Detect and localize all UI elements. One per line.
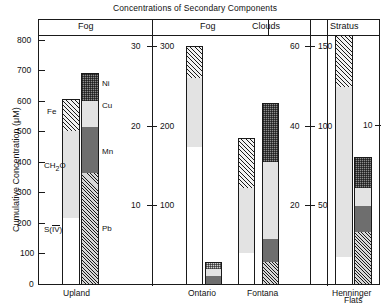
ontario-left-tick-20 (147, 126, 157, 127)
series-label-mn: Mn (102, 148, 113, 156)
ontario-right-tick-label-300: 300 (160, 42, 174, 51)
panel-header-upland: Fog (78, 22, 94, 31)
segment-siv (239, 253, 254, 284)
ontario-right-tick-label-100: 100 (160, 201, 174, 210)
y-tick-label-800: 800 (17, 36, 31, 45)
y-tick-700 (39, 70, 45, 71)
segment-mn (263, 239, 278, 262)
segment-ch2o (187, 78, 202, 147)
series-label-ch2o: CH2O (44, 162, 66, 172)
segment-ni (355, 158, 371, 188)
ch2o-text-a: CH (44, 161, 56, 170)
series-label-fe: Fe (47, 108, 56, 116)
henninger-left-tick-label-40: 40 (290, 122, 299, 131)
y-tick-600 (39, 101, 45, 102)
y-tick-label-600: 600 (17, 97, 31, 106)
bar-fontana-metals (262, 103, 279, 285)
segment-mn (82, 127, 98, 173)
henninger-left-tick-label-20: 20 (290, 201, 299, 210)
segment-ch2o (336, 87, 352, 257)
segment-ch2o (63, 131, 79, 218)
y-tick-300 (39, 192, 45, 193)
panel-divider-3 (327, 20, 328, 286)
y-tick-label-400: 400 (17, 158, 31, 167)
series-label-cu: Cu (102, 102, 112, 110)
series-label-ni: Ni (102, 80, 110, 88)
henninger-left-tick-60 (305, 46, 315, 47)
y-tick-0 (39, 284, 45, 285)
ontario-left-tick-30 (147, 46, 157, 47)
henninger-axis-line (310, 20, 311, 285)
segment-siv (63, 218, 79, 284)
category-label-fontana: Fontana (247, 289, 278, 298)
y-tick-label-0: 0 (29, 280, 34, 289)
ontario-right-tick-label-200: 200 (160, 122, 174, 131)
y-tick-label-500: 500 (17, 127, 31, 136)
bar-henninger-metals (354, 157, 372, 285)
henninger-right-tick-label-50: 50 (318, 201, 327, 210)
ontario-left-tick-label-30: 30 (131, 42, 140, 51)
ontario-left-tick-label-20: 20 (131, 122, 140, 131)
segment-mn (355, 206, 371, 232)
siv-roman-numeral: IV (52, 225, 60, 234)
segment-siv (336, 257, 352, 284)
segment-fe (63, 100, 79, 131)
series-label-siv: S(IV) (44, 225, 62, 234)
y-tick-label-100: 100 (20, 249, 34, 258)
segment-ch2o (239, 188, 254, 253)
ontario-left-tick-label-10: 10 (131, 201, 140, 210)
y-tick-100 (39, 253, 45, 254)
segment-pb (206, 276, 221, 284)
henninger-left-tick-40 (305, 126, 315, 127)
henninger-right-tick-label-100: 100 (318, 122, 332, 131)
segment-cu (82, 101, 98, 127)
segment-pb (263, 262, 278, 284)
y-tick-label-300: 300 (17, 188, 31, 197)
segment-pb (82, 173, 98, 284)
category-label-upland: Upland (63, 289, 90, 298)
header-rule (39, 35, 379, 36)
y-tick-500 (39, 131, 45, 132)
segment-siv (187, 147, 202, 284)
bar-ontario-metals (205, 262, 222, 285)
segment-fe (336, 36, 352, 87)
y-tick-label-200: 200 (17, 219, 31, 228)
henninger-left-tick-label-60: 60 (290, 42, 299, 51)
bar-fontana-major (238, 138, 255, 285)
segment-cu (263, 162, 278, 239)
category-label-flats: Flats (344, 296, 362, 305)
siv-text-a: S( (44, 225, 52, 234)
bar-ontario-major (186, 46, 203, 285)
segment-fe (187, 47, 202, 78)
henninger-left-tick-20 (305, 205, 315, 206)
y-tick-800 (39, 40, 45, 41)
far-right-tick-10 (375, 125, 381, 126)
category-label-ontario: Ontario (188, 289, 216, 298)
segment-ni (82, 74, 98, 101)
segment-mn (206, 269, 221, 276)
panel-header-stratus: Stratus (330, 22, 359, 31)
bar-upland-major (62, 99, 80, 285)
henninger-right-tick-label-150: 150 (318, 42, 332, 51)
y-tick-200 (39, 223, 45, 224)
bar-upland-metals (81, 73, 99, 285)
segment-pb (355, 232, 371, 284)
panel-header-clouds: Clouds (252, 22, 280, 31)
ontario-left-tick-10 (147, 205, 157, 206)
ontario-axis-line (152, 20, 153, 285)
segment-ni (263, 104, 278, 162)
siv-text-b: ) (60, 225, 63, 234)
y-tick-label-700: 700 (17, 66, 31, 75)
panel-header-ontario: Fog (200, 22, 216, 31)
chart-title: Concentrations of Secondary Components (113, 4, 277, 13)
bar-henninger-major (335, 35, 353, 285)
ch2o-text-b: O (59, 161, 65, 170)
segment-fe (239, 139, 254, 188)
segment-cu (355, 188, 371, 206)
far-right-tick-label-10: 10 (363, 121, 372, 130)
series-label-pb: Pb (102, 225, 112, 233)
